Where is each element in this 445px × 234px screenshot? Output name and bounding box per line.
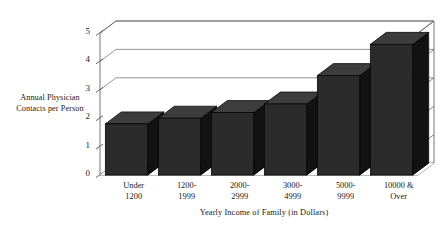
bar-series <box>105 32 428 175</box>
x-axis-tick-label-line: Under <box>106 181 162 192</box>
bar <box>158 106 216 175</box>
x-axis-tick-label: 2000-2999 <box>212 181 268 202</box>
bar-front-face <box>317 76 359 175</box>
bar <box>264 92 322 175</box>
x-axis-tick-label: 5000-9999 <box>318 181 374 202</box>
x-axis-tick-label-line: 5000- <box>318 181 374 192</box>
y-axis-tick <box>96 116 103 121</box>
x-axis-label: Yearly Income of Family (in Dollars) <box>104 208 424 217</box>
x-axis-tick-label-line: 10000 & <box>371 181 427 192</box>
x-axis-tick-label: Under1200 <box>106 181 162 202</box>
bar <box>370 32 428 175</box>
figure-container: Annual Physician Contacts per Person <box>0 0 445 234</box>
bar-front-face <box>264 104 306 175</box>
x-axis-tick-label: 1200-1999 <box>159 181 215 202</box>
bar-front-face <box>105 124 147 175</box>
y-axis-tick <box>96 87 103 92</box>
x-axis-tick-label-line: 1200- <box>159 181 215 192</box>
y-axis-tick <box>96 31 103 36</box>
y-axis-tick-label: 5 <box>74 27 90 36</box>
x-axis-tick-label-line: 2999 <box>212 192 268 203</box>
x-axis-tick-label: 3000-4999 <box>265 181 321 202</box>
bar-front-face <box>370 44 412 175</box>
x-axis-tick-label-line: 1999 <box>159 192 215 203</box>
bar <box>105 112 163 175</box>
y-axis-tick-label: 4 <box>74 55 90 64</box>
y-axis-tick-label: 0 <box>74 169 90 178</box>
y-axis-tick-label: 2 <box>74 112 90 121</box>
x-axis-tick-label-line: 3000- <box>265 181 321 192</box>
bar-side-face <box>413 32 429 175</box>
y-axis-ticks <box>96 31 103 178</box>
right-wall-tick <box>418 21 434 33</box>
x-axis-tick-label-line: 4999 <box>265 192 321 203</box>
y-axis-tick-label: 1 <box>74 141 90 150</box>
x-axis-tick-label-line: Over <box>371 192 427 203</box>
x-axis-label-text: Yearly Income of Family (in Dollars) <box>200 208 329 217</box>
y-axis-tick <box>96 59 103 64</box>
x-axis-tick-label: 10000 &Over <box>371 181 427 202</box>
x-axis-tick-label-line: 1200 <box>106 192 162 203</box>
x-axis-tick-label-line: 9999 <box>318 192 374 203</box>
bar-front-face <box>158 118 200 175</box>
figure-caption <box>36 227 436 234</box>
x-axis-tick-label-line: 2000- <box>212 181 268 192</box>
y-axis-tick-label: 3 <box>74 84 90 93</box>
bar-front-face <box>211 113 253 175</box>
y-axis-tick <box>96 144 103 149</box>
bar <box>211 101 269 175</box>
bar <box>317 64 375 175</box>
